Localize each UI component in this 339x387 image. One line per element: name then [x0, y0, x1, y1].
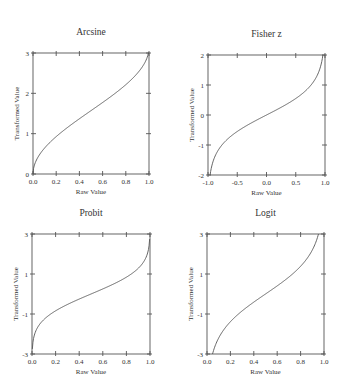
fisher-z-x-axis-label: Raw Value: [251, 189, 281, 197]
probit-y-axis-label: Transformed Value: [12, 267, 20, 320]
x-tick-label: -0.5: [232, 179, 244, 187]
x-tick-label: 1.0: [145, 178, 154, 186]
fisher-z-curve: [210, 55, 323, 175]
figure-panel-grid: Arcsine0.00.20.40.60.81.00123Raw ValueTr…: [0, 0, 339, 387]
x-tick-label: 0.0: [262, 179, 271, 187]
y-tick-label: -1: [22, 311, 28, 319]
arcsine-title: Arcsine: [76, 27, 106, 37]
y-tick-label: 0: [26, 171, 30, 179]
y-tick-label: 3: [200, 231, 204, 239]
x-tick-label: 1.0: [321, 179, 330, 187]
y-tick-label: -1: [197, 311, 203, 319]
x-tick-label: 0.5: [291, 179, 300, 187]
y-tick-label: 3: [26, 50, 30, 58]
x-tick-label: 0.2: [52, 178, 61, 186]
x-tick-label: 0.2: [51, 358, 60, 366]
fisher-z-y-axis-label: Transformed Value: [188, 88, 196, 141]
x-tick-label: 0.0: [29, 178, 38, 186]
probit-curve: [32, 239, 149, 349]
y-tick-label: 1: [26, 130, 30, 138]
y-tick-label: 1: [25, 271, 29, 279]
y-tick-label: 1: [201, 82, 205, 90]
logit-y-axis-label: Transformed Value: [187, 267, 195, 320]
logit-x-axis-label: Raw Value: [250, 368, 280, 376]
logit-chart: Logit0.00.20.40.60.81.0-3-113Raw ValueTr…: [187, 208, 329, 376]
x-tick-label: 0.4: [75, 358, 84, 366]
y-tick-label: -3: [22, 351, 28, 359]
y-tick-label: 3: [25, 231, 29, 239]
arcsine-y-axis-label: Transformed Value: [13, 87, 21, 140]
y-tick-label: 2: [201, 52, 205, 60]
y-tick-label: -3: [197, 351, 203, 359]
x-tick-label: 0.4: [75, 178, 84, 186]
probit-title: Probit: [79, 208, 103, 218]
x-tick-label: 0.6: [98, 358, 107, 366]
y-tick-label: 0: [201, 112, 205, 120]
figure-canvas: Arcsine0.00.20.40.60.81.00123Raw ValueTr…: [0, 0, 339, 387]
x-tick-label: -1.0: [202, 179, 214, 187]
arcsine-chart: Arcsine0.00.20.40.60.81.00123Raw ValueTr…: [13, 27, 154, 196]
x-tick-label: 0.0: [28, 358, 37, 366]
fisher-z-chart: Fisher z-1.0-0.50.00.51.0-2-1012Raw Valu…: [188, 29, 330, 197]
arcsine-curve: [33, 53, 149, 174]
arcsine-plot-frame: [33, 53, 149, 174]
y-tick-label: -1: [198, 142, 204, 150]
x-tick-label: 0.2: [226, 358, 235, 366]
arcsine-x-axis-label: Raw Value: [76, 188, 106, 196]
probit-x-axis-label: Raw Value: [76, 368, 106, 376]
y-tick-label: 2: [26, 90, 30, 98]
x-tick-label: 1.0: [320, 358, 329, 366]
x-tick-label: 1.0: [146, 358, 155, 366]
fisher-z-title: Fisher z: [251, 29, 281, 39]
x-tick-label: 0.8: [122, 358, 131, 366]
x-tick-label: 0.8: [121, 178, 130, 186]
y-tick-label: -2: [198, 172, 204, 180]
logit-title: Logit: [255, 208, 276, 218]
x-tick-label: 0.6: [273, 358, 282, 366]
x-tick-label: 0.8: [296, 358, 305, 366]
logit-curve: [213, 234, 319, 354]
y-tick-label: 1: [200, 271, 204, 279]
x-tick-label: 0.0: [203, 358, 212, 366]
probit-chart: Probit0.00.20.40.60.81.0-3-113Raw ValueT…: [12, 208, 155, 376]
x-tick-label: 0.6: [98, 178, 107, 186]
x-tick-label: 0.4: [249, 358, 258, 366]
